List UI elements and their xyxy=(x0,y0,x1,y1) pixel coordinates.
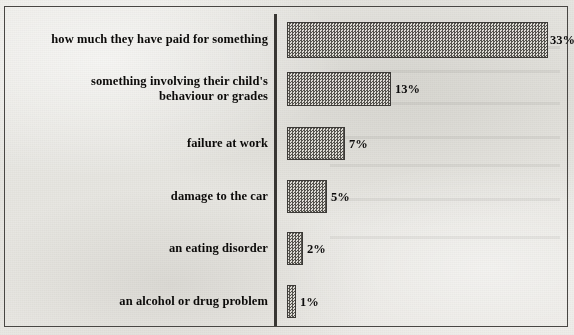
plot-area: how much they have paid for something 33… xyxy=(0,0,574,335)
bar-label: damage to the car xyxy=(171,189,268,204)
bar-row: an alcohol or drug problem 1% xyxy=(10,285,574,318)
bar-row: how much they have paid for something 33… xyxy=(10,22,574,58)
bar-row: something involving their child's behavi… xyxy=(10,72,574,106)
bar-value-label: 2% xyxy=(307,242,326,256)
bar-value-label: 7% xyxy=(349,137,368,151)
bar-label: failure at work xyxy=(187,136,268,151)
category-axis-line xyxy=(274,14,277,326)
chart-screenshot: how much they have paid for something 33… xyxy=(0,0,574,335)
bar-rect[interactable] xyxy=(287,22,548,58)
bar-row: an eating disorder 2% xyxy=(10,232,574,265)
bar-rect[interactable] xyxy=(287,127,345,160)
bar-rect[interactable] xyxy=(287,232,303,265)
bar-row: failure at work 7% xyxy=(10,127,574,160)
bar-value-label: 13% xyxy=(395,82,420,96)
bar-value-label: 1% xyxy=(300,295,319,309)
ink-layer: how much they have paid for something 33… xyxy=(0,0,574,335)
bar-label: an alcohol or drug problem xyxy=(119,294,268,309)
bar-label: something involving their child's behavi… xyxy=(91,74,268,104)
bar-row: damage to the car 5% xyxy=(10,180,574,213)
bar-rect[interactable] xyxy=(287,72,391,106)
bar-label: an eating disorder xyxy=(169,241,268,256)
bar-rect[interactable] xyxy=(287,180,327,213)
bar-value-label: 5% xyxy=(331,190,350,204)
bar-value-label: 33% xyxy=(550,33,574,47)
bar-rect[interactable] xyxy=(287,285,296,318)
bar-label: how much they have paid for something xyxy=(51,32,268,47)
